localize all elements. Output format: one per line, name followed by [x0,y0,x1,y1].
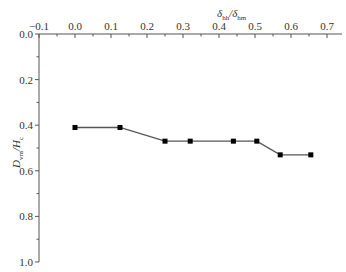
data-series [73,125,314,157]
x-axis-title: δhh/δhm [217,7,247,22]
x-tick-label: 0.1 [104,20,118,32]
x-axis-ticks: −0.10.00.10.20.30.40.50.60.7 [29,20,334,38]
line-chart: −0.10.00.10.20.30.40.50.60.7 0.00.20.40.… [0,0,346,272]
axes [39,34,342,262]
x-tick-label: 0.6 [284,20,298,32]
y-tick-label: 0.4 [19,119,33,131]
data-point-marker [308,152,313,157]
data-point-marker [231,139,236,144]
x-tick-label: 0.3 [176,20,190,32]
y-axis-ticks: 0.00.20.40.60.81.0 [19,28,39,268]
series-line [75,127,311,154]
x-tick-label: 0.7 [320,20,334,32]
data-point-marker [73,125,78,130]
y-tick-label: 0.0 [19,28,33,40]
x-tick-label: 0.2 [140,20,154,32]
y-tick-label: 0.8 [19,210,33,222]
data-point-marker [163,139,168,144]
data-point-marker [278,152,283,157]
y-tick-label: 0.2 [19,74,33,86]
y-tick-label: 1.0 [19,256,33,268]
data-point-marker [188,139,193,144]
data-point-marker [118,125,123,130]
data-point-marker [254,139,259,144]
x-tick-label: 0.5 [248,20,262,32]
x-tick-label: 0.0 [68,20,82,32]
